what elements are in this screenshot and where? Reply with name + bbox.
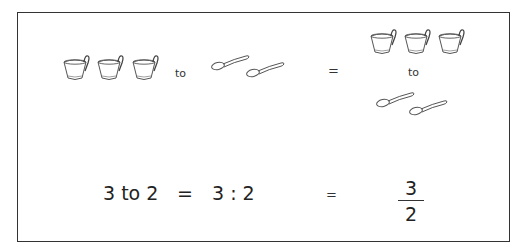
right-to-label: to — [408, 66, 419, 79]
ratio-colon: 3 : 2 — [212, 182, 255, 204]
fraction-bar — [398, 200, 424, 201]
teacup-icon — [132, 56, 162, 88]
to-label: to — [175, 67, 186, 80]
equals-sign: = — [326, 187, 337, 202]
teacup-icon — [370, 30, 400, 62]
fraction-numerator: 3 — [398, 177, 424, 199]
teacup-icon — [438, 30, 468, 62]
spoon-icon — [247, 61, 289, 85]
diagram-frame — [17, 12, 510, 242]
spoon-icon — [410, 99, 452, 123]
teacup-icon — [97, 56, 127, 88]
teacup-icon — [63, 56, 93, 88]
fraction-denominator: 2 — [398, 203, 424, 225]
ratio-words: 3 to 2 — [103, 182, 158, 204]
teacup-icon — [404, 30, 434, 62]
equals-sign: = — [177, 182, 193, 204]
ratio-fraction: 3 2 — [398, 177, 424, 225]
equals-sign: = — [328, 63, 339, 78]
